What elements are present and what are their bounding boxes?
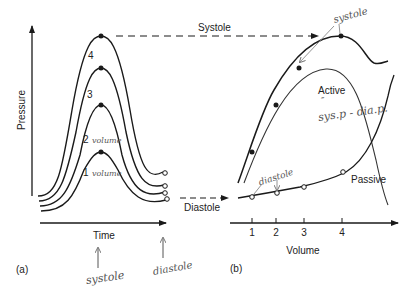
handwritten-systole-note: systole <box>85 269 125 287</box>
diastole-arrow-label: Diastole <box>184 202 221 213</box>
handwritten-diastole-b: diastole <box>257 167 294 188</box>
pressure-curve-3 <box>39 68 164 201</box>
passive-label: Passive <box>351 174 386 185</box>
systolic-pv-point-1 <box>250 150 255 155</box>
volume-axis-label: Volume <box>286 245 320 256</box>
systolic-pv-point-4 <box>339 34 344 39</box>
passive-point-3 <box>302 185 307 190</box>
handwritten-volume-1: volume <box>92 169 122 178</box>
passive-point-4 <box>341 170 346 175</box>
systolic-pv-point-2 <box>274 103 279 108</box>
handwritten-systole-b: systole <box>332 5 369 25</box>
panel-a: Pressure Time (a) 4 3 2 1 volume volume … <box>16 26 193 287</box>
time-axis-label: Time <box>93 230 115 241</box>
diastolic-point-4 <box>163 171 168 176</box>
panel-b: 1 2 3 4 Volume (b) Active ″ sys.p - dia.… <box>230 5 398 274</box>
handwritten-active-note-mark: ″ <box>321 96 325 106</box>
passive-point-1 <box>250 195 255 200</box>
diastolic-point-2 <box>163 191 168 196</box>
handwritten-diastole-note: diastole <box>152 259 193 277</box>
systole-arrow-label: Systole <box>198 22 231 33</box>
curve-label-1: 1 <box>83 167 89 178</box>
volume-tick-label-1: 1 <box>249 227 255 238</box>
diastolic-point-3 <box>163 184 168 189</box>
diastolic-point-1 <box>165 197 170 202</box>
systolic-pv-point-3 <box>297 66 302 71</box>
pressure-curve-2 <box>40 105 165 206</box>
handwritten-active-note: sys.p - dia.p. <box>317 101 388 124</box>
curve-label-2: 2 <box>83 134 89 145</box>
curve-label-3: 3 <box>87 89 93 100</box>
panel-b-label: (b) <box>230 263 242 274</box>
panel-a-label: (a) <box>16 264 28 275</box>
pressure-axis-label: Pressure <box>16 90 27 130</box>
handwritten-systole-bracket <box>300 26 334 62</box>
volume-tick-label-3: 3 <box>301 227 307 238</box>
handwritten-diastole-bracket <box>254 184 262 194</box>
volume-tick-label-2: 2 <box>273 227 279 238</box>
systolic-peak-1 <box>99 150 104 155</box>
curve-label-4: 4 <box>88 50 94 61</box>
cardiac-pressure-volume-diagram: Pressure Time (a) 4 3 2 1 volume volume … <box>0 0 412 301</box>
handwritten-volume-2: volume <box>92 136 122 145</box>
pressure-curve-1 <box>41 152 166 211</box>
volume-tick-label-4: 4 <box>339 227 345 238</box>
connecting-arrows: Systole Diastole <box>116 22 318 213</box>
systolic-peak-2 <box>99 103 104 108</box>
handwritten-systole-pointer <box>339 24 340 34</box>
systolic-peak-3 <box>99 66 104 71</box>
passive-point-2 <box>275 191 280 196</box>
active-label: Active <box>318 85 346 96</box>
systolic-peak-4 <box>99 34 104 39</box>
